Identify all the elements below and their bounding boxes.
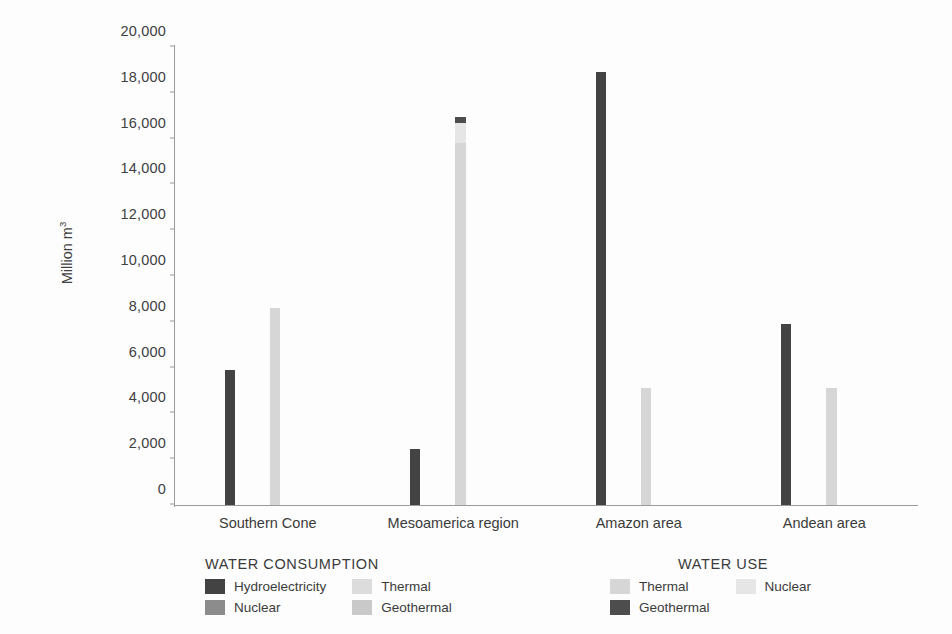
y-axis-tick-label: 0: [158, 481, 166, 497]
legend-swatch: [205, 579, 225, 594]
y-axis-tick-label: 14,000: [120, 160, 166, 176]
legend-title-water-consumption: WATER CONSUMPTION: [205, 556, 452, 572]
y-axis-tick-label: 10,000: [120, 252, 166, 268]
y-axis-label-exponent: 3: [57, 222, 68, 227]
bar[interactable]: [781, 324, 791, 505]
y-axis-tick-label: 6,000: [129, 344, 166, 360]
legend-item[interactable]: Geothermal: [610, 600, 710, 615]
bar-segment[interactable]: [455, 143, 465, 505]
bar-group: Mesoamerica region: [361, 47, 547, 505]
legend-item-label: Thermal: [639, 580, 689, 594]
legend-item[interactable]: Thermal: [610, 579, 710, 594]
legend-swatch: [205, 600, 225, 615]
bar-segment[interactable]: [596, 72, 606, 505]
legend-item-label: Nuclear: [234, 601, 281, 615]
chart-figure: Million m3 02,0004,0006,0008,00010,00012…: [0, 0, 952, 634]
legend-water-use: WATER USE ThermalNuclearGeothermal: [610, 556, 811, 615]
y-axis-tick-label: 4,000: [129, 389, 166, 405]
bar[interactable]: [410, 449, 420, 505]
legend-item-label: Nuclear: [765, 580, 812, 594]
y-axis-tick-label: 2,000: [129, 435, 166, 451]
legend-item[interactable]: Nuclear: [205, 600, 326, 615]
y-axis-label-text: Million m: [59, 227, 75, 284]
plot-area: 02,0004,0006,0008,00010,00012,00014,0001…: [175, 47, 917, 505]
legend-items-water-use: ThermalNuclearGeothermal: [610, 579, 811, 615]
legend-item-label: Hydroelectricity: [234, 580, 326, 594]
bar[interactable]: [270, 308, 280, 505]
y-axis-label: Million m3: [57, 222, 75, 285]
legend-item-label: Thermal: [381, 580, 431, 594]
bar[interactable]: [596, 72, 606, 505]
bar-segment[interactable]: [641, 388, 651, 505]
legend-swatch: [610, 579, 630, 594]
legend-item[interactable]: Geothermal: [352, 600, 452, 615]
legend-swatch: [352, 600, 372, 615]
y-axis-tick-label: 20,000: [120, 23, 166, 39]
legend-items-water-consumption: HydroelectricityThermalNuclearGeothermal: [205, 579, 452, 615]
x-axis-line: [174, 505, 918, 506]
bar[interactable]: [225, 370, 235, 505]
legend-item[interactable]: Nuclear: [736, 579, 812, 594]
legend-swatch: [736, 579, 756, 594]
bar-segment[interactable]: [455, 123, 465, 144]
legend-swatch: [352, 579, 372, 594]
legend-item[interactable]: Hydroelectricity: [205, 579, 326, 594]
x-axis-tick-label: Southern Cone: [219, 515, 317, 531]
y-axis-tick-label: 12,000: [120, 206, 166, 222]
legend-item[interactable]: Thermal: [352, 579, 452, 594]
bar-segment[interactable]: [410, 449, 420, 505]
bar[interactable]: [826, 388, 836, 505]
bar[interactable]: [455, 117, 465, 505]
x-axis-tick-label: Mesoamerica region: [388, 515, 519, 531]
legend-title-water-use: WATER USE: [678, 556, 811, 572]
x-axis-tick-label: Amazon area: [596, 515, 682, 531]
legend-swatch: [610, 600, 630, 615]
bar-segment[interactable]: [270, 308, 280, 505]
legend-item-label: Geothermal: [639, 601, 710, 615]
bar-segment[interactable]: [225, 370, 235, 505]
bar-segment[interactable]: [781, 324, 791, 505]
legend-water-consumption: WATER CONSUMPTION HydroelectricityTherma…: [205, 556, 452, 615]
bar-group: Southern Cone: [175, 47, 361, 505]
bar-segment[interactable]: [826, 388, 836, 505]
bar-group: Andean area: [732, 47, 918, 505]
y-axis-tick-label: 8,000: [129, 298, 166, 314]
y-axis-tick-label: 18,000: [120, 69, 166, 85]
bar[interactable]: [641, 388, 651, 505]
y-axis-tick-label: 16,000: [120, 115, 166, 131]
x-axis-tick-label: Andean area: [783, 515, 866, 531]
bar-segment[interactable]: [455, 117, 465, 123]
legend-item-label: Geothermal: [381, 601, 452, 615]
bar-group: Amazon area: [546, 47, 732, 505]
